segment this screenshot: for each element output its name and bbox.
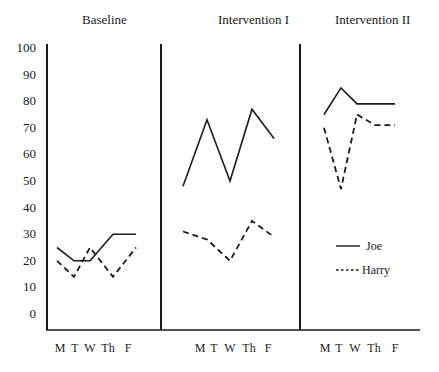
y-tick-label: 90 <box>23 67 36 82</box>
day-label: M <box>195 341 206 355</box>
y-tick-label: 10 <box>23 279 36 294</box>
series-line-joe <box>57 234 136 261</box>
day-label: M <box>55 341 66 355</box>
day-label: T <box>71 341 79 355</box>
y-tick-label: 40 <box>23 200 36 215</box>
y-tick-label: 0 <box>30 306 37 321</box>
y-tick-label: 50 <box>23 173 36 188</box>
day-label: M <box>320 341 331 355</box>
day-label: W <box>84 341 96 355</box>
legend-label-harry: Harry <box>362 263 390 277</box>
day-label: T <box>335 341 343 355</box>
day-label: Th <box>242 341 255 355</box>
series-line-harry <box>57 248 136 277</box>
y-tick-label: 80 <box>23 93 36 108</box>
x-axis-day-labels: MTWThFMTWThFMTWThF <box>55 341 399 355</box>
y-tick-label: 20 <box>23 253 36 268</box>
day-label: W <box>349 341 361 355</box>
day-label: Th <box>101 341 114 355</box>
phase-title: Intervention I <box>218 12 289 27</box>
phase-title: Baseline <box>82 12 127 27</box>
series-line-harry <box>183 221 274 261</box>
legend-label-joe: Joe <box>366 239 382 253</box>
series-line-harry <box>324 115 395 190</box>
y-tick-label: 30 <box>23 226 36 241</box>
day-label: F <box>392 341 399 355</box>
y-axis: 0102030405060708090100 <box>17 40 37 321</box>
y-tick-label: 60 <box>23 146 36 161</box>
day-label: F <box>265 341 272 355</box>
day-label: T <box>210 341 218 355</box>
series-line-joe <box>324 88 395 115</box>
data-series <box>57 88 395 277</box>
reversal-design-line-chart: BaselineIntervention IIntervention II 01… <box>0 0 439 372</box>
y-tick-label: 70 <box>23 120 36 135</box>
day-label: Th <box>367 341 380 355</box>
phase-title: Intervention II <box>335 12 410 27</box>
y-tick-label: 100 <box>17 40 37 55</box>
legend: JoeHarry <box>336 239 390 277</box>
phase-titles: BaselineIntervention IIntervention II <box>82 12 410 27</box>
axis-frame <box>46 44 420 330</box>
day-label: W <box>224 341 236 355</box>
day-label: F <box>125 341 132 355</box>
series-line-joe <box>183 109 274 186</box>
